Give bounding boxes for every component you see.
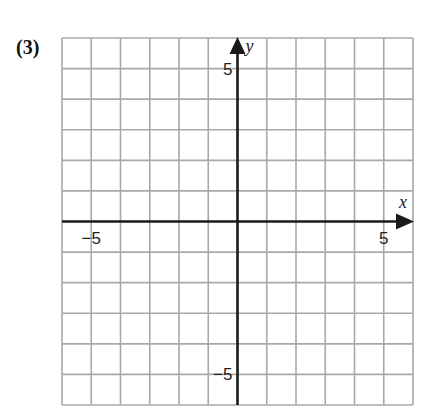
coordinate-grid: xy−555−5 bbox=[0, 0, 426, 413]
y-axis-label: y bbox=[244, 36, 254, 56]
x-axis-label: x bbox=[398, 192, 407, 212]
x-tick-label: −5 bbox=[82, 229, 101, 248]
y-axis-arrow-icon bbox=[230, 37, 246, 54]
y-tick-label: 5 bbox=[223, 60, 232, 79]
x-axis-arrow-icon bbox=[396, 214, 414, 230]
x-tick-label: 5 bbox=[379, 229, 388, 248]
y-tick-label: −5 bbox=[213, 365, 232, 384]
